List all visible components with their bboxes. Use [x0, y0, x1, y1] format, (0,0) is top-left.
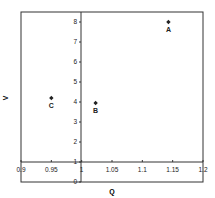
x-tick-label: 1.2 [198, 166, 207, 173]
plot-frame [21, 12, 203, 182]
point-label: B [93, 107, 98, 114]
y-tick: 5 [73, 78, 81, 85]
x-tick-label: 0.9 [16, 166, 25, 173]
x-tick-label: 1 [80, 166, 84, 173]
diamond-marker-icon [166, 20, 170, 24]
x-tick-label: 1.05 [106, 166, 119, 173]
y-tick-label: 1 [73, 158, 77, 165]
x-tick-label: 1.15 [166, 166, 179, 173]
y-tick-label: 5 [73, 78, 77, 85]
y-ticks: 012345678 [73, 18, 81, 185]
x-tick-label: 0.95 [45, 166, 58, 173]
x-axis-label: Q [109, 188, 115, 196]
y-axis-label: V [2, 95, 9, 100]
y-tick: 2 [73, 138, 81, 145]
y-tick-label: 6 [73, 58, 77, 65]
y-tick: 3 [73, 118, 81, 125]
data-point-c: C [49, 96, 54, 109]
y-tick-label: 4 [73, 98, 77, 105]
diamond-marker-icon [49, 96, 53, 100]
y-tick-label: 3 [73, 118, 77, 125]
y-tick: 4 [73, 98, 81, 105]
data-point-a: A [166, 20, 171, 33]
y-tick-label: 0 [73, 178, 77, 185]
y-tick-label: 7 [73, 38, 77, 45]
y-tick: 8 [73, 18, 81, 25]
y-tick-label: 8 [73, 18, 77, 25]
y-tick-label: 2 [73, 138, 77, 145]
data-points: ABC [49, 20, 171, 114]
data-point-b: B [93, 101, 98, 114]
y-tick: 7 [73, 38, 81, 45]
diamond-marker-icon [93, 101, 97, 105]
y-tick: 6 [73, 58, 81, 65]
x-tick-label: 1.1 [138, 166, 147, 173]
point-label: C [49, 102, 54, 109]
point-label: A [166, 26, 171, 33]
scatter-chart: 012345678 0.90.9511.051.11.151.2 ABC Q V [0, 0, 215, 198]
